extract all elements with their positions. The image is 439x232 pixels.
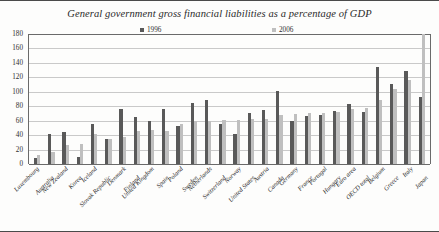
bar-2006-greece (393, 89, 396, 164)
legend-item-1996: 1996 (140, 26, 161, 34)
bar-group (59, 34, 73, 164)
bar-2006-korea (80, 144, 83, 164)
x-axis-label-japan: Japan (413, 174, 429, 190)
bar-group (173, 34, 187, 164)
bar-2006-euro-area (351, 109, 354, 164)
bar-group (158, 34, 172, 164)
bar-group (230, 34, 244, 164)
plot-area (28, 34, 431, 164)
bar-2006-poland (180, 124, 183, 164)
chart-figure: General government gross financial liabi… (0, 0, 439, 232)
bar-2006-france (308, 113, 311, 164)
y-axis-tick-120: 120 (12, 73, 23, 81)
y-axis-tick-160: 160 (12, 44, 23, 52)
bar-2006-spain (165, 131, 168, 164)
x-axis-label-greece: Greece (382, 174, 400, 192)
bar-2006-norway (237, 120, 240, 164)
legend-label-2006: 2006 (279, 26, 293, 34)
bar-group (401, 34, 415, 164)
bar-2006-iceland (94, 134, 97, 164)
bar-2006-denmark (123, 137, 126, 164)
bar-2006-hungary (336, 112, 339, 164)
bar-series-container (29, 34, 430, 164)
x-axis-label-belgium: Belgium (366, 165, 386, 185)
page-title: General government gross financial liabi… (0, 8, 439, 19)
bar-group (215, 34, 229, 164)
legend-label-1996: 1996 (147, 26, 161, 34)
bar-2006-united-states (251, 119, 254, 164)
bar-group (386, 34, 400, 164)
bar-2006-oecd-total (365, 108, 368, 164)
legend-swatch-2006 (272, 28, 276, 32)
bar-group (201, 34, 215, 164)
bar-group (244, 34, 258, 164)
bar-group (329, 34, 343, 164)
y-axis-tick-140: 140 (12, 59, 23, 67)
bar-group (287, 34, 301, 164)
x-axis: LuxembourgAustraliaNew ZealandKoreaIcela… (28, 165, 431, 227)
y-axis-tick-60: 60 (16, 117, 23, 125)
bar-2006-belgium (379, 100, 382, 164)
bar-group (301, 34, 315, 164)
bar-group (87, 34, 101, 164)
y-axis-tick-0: 0 (19, 160, 23, 168)
bar-group (372, 34, 386, 164)
bar-2006-japan (422, 34, 425, 164)
bar-group (315, 34, 329, 164)
y-axis-tick-80: 80 (16, 102, 23, 110)
bar-2006-portugal (322, 113, 325, 164)
y-axis-tick-40: 40 (16, 131, 23, 139)
bar-2006-netherlands (208, 121, 211, 164)
bar-2006-italy (408, 80, 411, 165)
bar-2006-finland (137, 131, 140, 164)
bar-2006-united-kingdom (151, 130, 154, 164)
bar-2006-sweden (194, 121, 197, 164)
bar-group (258, 34, 272, 164)
bar-group (44, 34, 58, 164)
bar-group (144, 34, 158, 164)
bar-group (130, 34, 144, 164)
bar-group (101, 34, 115, 164)
bar-group (116, 34, 130, 164)
bar-group (73, 34, 87, 164)
y-axis-tick-20: 20 (16, 146, 23, 154)
x-axis-label-italy: Italy (401, 165, 414, 178)
bar-2006-new-zealand (66, 145, 69, 165)
bar-group (30, 34, 44, 164)
bar-group (272, 34, 286, 164)
bar-group (358, 34, 372, 164)
bar-2006-slovak-republic (108, 139, 111, 164)
bar-group (187, 34, 201, 164)
bar-group (415, 34, 429, 164)
bar-2006-austria (265, 119, 268, 165)
x-axis-label-poland: Poland (166, 165, 184, 183)
bar-2006-luxembourg (37, 155, 40, 164)
y-axis-tick-180: 180 (12, 30, 23, 38)
x-axis-label-norway: Norway (222, 165, 241, 184)
y-axis-tick-100: 100 (12, 88, 23, 96)
y-axis: 020406080100120140160180 (0, 34, 26, 164)
x-axis-label-iceland: Iceland (79, 165, 98, 184)
x-axis-label-austria: Austria (252, 165, 270, 183)
bar-group (344, 34, 358, 164)
bar-2006-canada (279, 115, 282, 164)
legend-swatch-1996 (140, 28, 144, 32)
bar-2006-australia (51, 152, 54, 164)
legend-item-2006: 2006 (272, 26, 293, 34)
bar-2006-germany (294, 114, 297, 164)
bar-2006-switzerland (222, 120, 225, 164)
